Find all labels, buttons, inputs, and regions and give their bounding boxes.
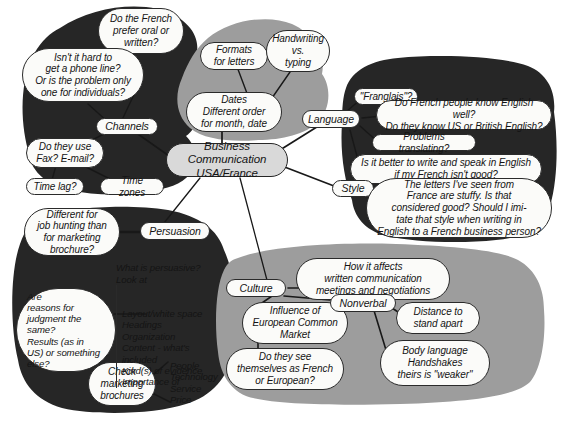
- mindmap-canvas: Business Communication USA/France Do the…: [0, 0, 564, 426]
- node-phone-line[interactable]: Isn't it hard to get a phone line? Or is…: [22, 48, 144, 102]
- persuasion-factors-block: People Technology Service Price: [170, 360, 250, 406]
- center-node[interactable]: Business Communication USA/France: [166, 143, 288, 177]
- node-reasons-judgment[interactable]: Are reasons for judgment the same? Resul…: [16, 288, 116, 372]
- node-job-hunting-brochure[interactable]: Different for job hunting than for marke…: [24, 208, 120, 256]
- node-problems-translating[interactable]: Problems translating?: [372, 134, 476, 151]
- node-language[interactable]: Language: [302, 110, 360, 128]
- node-distance-stand-apart[interactable]: Distance to stand apart: [396, 302, 480, 334]
- node-handwriting-typing[interactable]: Handwriting vs. typing: [266, 30, 330, 72]
- node-culture[interactable]: Culture: [226, 279, 286, 297]
- checklist-rule: [116, 285, 117, 388]
- node-dates-order[interactable]: Dates Different order for month, date: [186, 92, 282, 132]
- persuasive-checklist-header: What is persuasive? Look at: [116, 262, 200, 284]
- node-formats-letters[interactable]: Formats for letters: [200, 42, 268, 70]
- node-time-zones[interactable]: Time zones: [100, 178, 164, 195]
- node-time-lag[interactable]: Time lag?: [26, 178, 84, 195]
- node-channels[interactable]: Channels: [96, 118, 158, 135]
- node-persuasion[interactable]: Persuasion: [140, 222, 210, 240]
- node-style[interactable]: Style: [332, 180, 374, 197]
- node-letters-stuffy[interactable]: The letters I've seen from France are st…: [366, 178, 552, 238]
- node-fax-email[interactable]: Do they use Fax? E-mail?: [26, 138, 104, 168]
- node-nonverbal[interactable]: Nonverbal: [330, 294, 396, 312]
- node-know-english[interactable]: Do French people know English well? Do t…: [376, 100, 552, 130]
- node-body-language[interactable]: Body language Handshakes theirs is "weak…: [380, 340, 490, 386]
